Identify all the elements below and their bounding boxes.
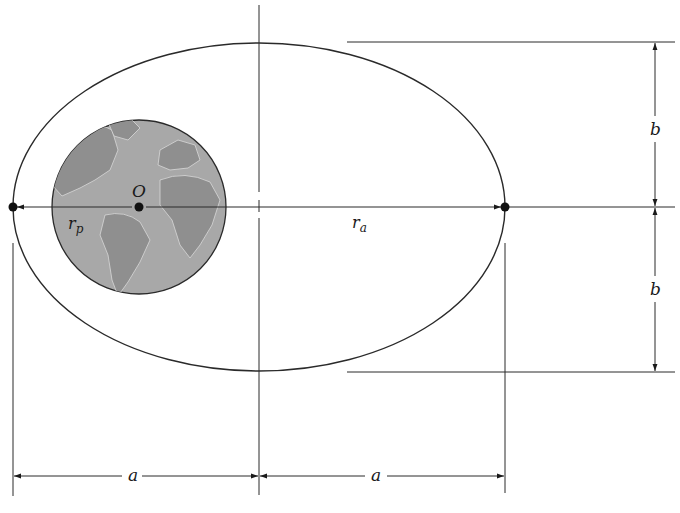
semi-minor-label-bottom: b — [650, 279, 661, 299]
semi-major-dimension-right: a — [260, 465, 504, 485]
orbit-diagram: O rp ra b b a a — [0, 0, 680, 513]
semi-minor-dimension-bottom: b — [650, 208, 661, 371]
semi-major-label-right: a — [371, 465, 381, 485]
semi-minor-dimension-top: b — [650, 43, 661, 206]
focus-label: O — [132, 181, 146, 201]
semi-major-label-left: a — [128, 465, 138, 485]
semi-major-dimension-left: a — [14, 465, 258, 485]
semi-minor-label-top: b — [650, 119, 661, 139]
apogee-radius-label: ra — [352, 213, 367, 235]
focus-point — [135, 203, 144, 212]
perigee-point — [9, 203, 18, 212]
apogee-point — [501, 203, 510, 212]
